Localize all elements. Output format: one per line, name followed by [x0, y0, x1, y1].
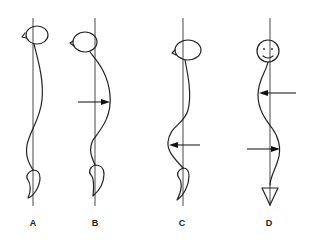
arrow-right-b	[78, 99, 110, 105]
head-b	[73, 32, 97, 52]
arrow-left-d	[259, 90, 296, 96]
spine-b	[90, 52, 110, 165]
spine-d	[258, 62, 280, 185]
pelvis-b	[90, 165, 104, 196]
eye-right-d	[271, 48, 273, 50]
arrow-right-d	[247, 146, 280, 152]
head-c	[175, 40, 201, 60]
head-a	[26, 26, 48, 44]
posture-diagram: A B C	[0, 0, 310, 240]
label-c: C	[179, 218, 186, 228]
arrow-left-c	[169, 142, 200, 148]
head-d	[257, 40, 279, 62]
figure-c: C	[168, 18, 201, 228]
face-a	[22, 33, 26, 38]
label-d: D	[266, 218, 273, 228]
figure-d: D	[247, 18, 296, 228]
label-a: A	[30, 218, 37, 228]
spine-a	[27, 44, 43, 170]
spine-c	[168, 60, 190, 168]
figure-b: B	[70, 18, 110, 228]
figure-a: A	[22, 18, 48, 228]
eye-left-d	[263, 48, 265, 50]
label-b: B	[92, 218, 99, 228]
mouth-d	[263, 56, 273, 58]
